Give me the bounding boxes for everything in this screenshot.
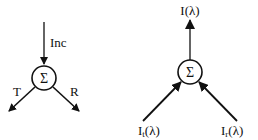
- sigma-symbol-left: Σ: [40, 71, 48, 86]
- right-diagram: I(λ) Σ It(λ) Ir(λ): [138, 3, 243, 139]
- reflected-input-label: Ir(λ): [221, 123, 243, 139]
- diagram-canvas: Inc Σ T R I(λ) Σ It(λ) Ir(λ): [0, 0, 258, 140]
- transmitted-label: T: [13, 84, 21, 99]
- transmitted-input-arrow: [143, 82, 181, 121]
- output-label: I(λ): [180, 3, 199, 18]
- sigma-symbol-right: Σ: [186, 65, 194, 80]
- reflected-input-arrow: [199, 82, 237, 121]
- left-diagram: Inc Σ T R: [9, 22, 79, 111]
- incident-label: Inc: [50, 35, 67, 50]
- reflected-label: R: [70, 84, 79, 99]
- transmitted-input-label: It(λ): [138, 123, 160, 139]
